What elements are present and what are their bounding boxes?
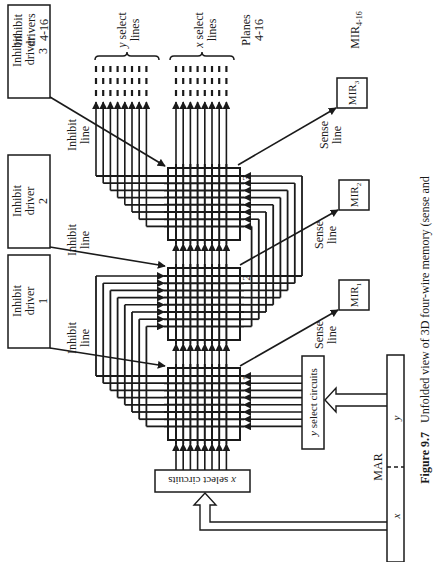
svg-text:2: 2 bbox=[36, 198, 50, 204]
svg-text:line: line bbox=[325, 326, 339, 344]
svg-text:3: 3 bbox=[240, 175, 252, 181]
inhibit-driver-2: Inhibit driver 2 bbox=[8, 155, 50, 248]
svg-text:Sense: Sense bbox=[312, 321, 326, 349]
y-select-lines-brace bbox=[95, 52, 159, 60]
x-select-lines-label: x select lines bbox=[192, 12, 219, 49]
sense-line-label-3: Sense line bbox=[317, 121, 344, 149]
svg-text:y select circuits: y select circuits bbox=[307, 368, 319, 437]
svg-text:line: line bbox=[78, 231, 92, 249]
svg-text:3: 3 bbox=[36, 48, 50, 54]
figure-caption: Figure 9.7 Unfolded view of 3D four-wire… bbox=[418, 176, 432, 483]
inhibit-line-label-3: Inhibit line bbox=[65, 118, 92, 151]
svg-text:4-16: 4-16 bbox=[252, 19, 266, 41]
plane-3-number: 3 bbox=[240, 175, 252, 181]
svg-text:driver: driver bbox=[23, 287, 37, 316]
inhibit-driver-1: Inhibit driver 1 bbox=[8, 255, 50, 348]
mar-x-field: x bbox=[390, 513, 402, 519]
mar-y-to-y-select-arrow bbox=[325, 388, 387, 412]
plane-1-number: 1 bbox=[240, 375, 252, 381]
svg-text:lines: lines bbox=[128, 18, 142, 41]
mir-group-label: MIR4-16 bbox=[348, 11, 364, 48]
inhibit-line-label-1: Inhibit line bbox=[65, 321, 92, 354]
mar-y-field: y bbox=[390, 415, 402, 421]
svg-text:Inhibit: Inhibit bbox=[11, 13, 25, 46]
svg-text:Planes: Planes bbox=[239, 14, 253, 46]
plane-2-number: 2 bbox=[240, 275, 252, 281]
svg-text:Inhibit: Inhibit bbox=[65, 321, 79, 354]
mir-1: MIR1 bbox=[339, 280, 369, 310]
core-memory-diagram: Inhibit driver 3 Inhibit driver 2 Inhibi… bbox=[0, 0, 438, 562]
mar-register: y x MAR bbox=[371, 355, 404, 562]
sense-line-label-1: Sense line bbox=[312, 321, 339, 349]
svg-text:Figure 9.7 Unfolded view: Figure 9.7 Unfolded view of 3D four-wire… bbox=[418, 176, 432, 483]
svg-text:4-16: 4-16 bbox=[37, 19, 51, 41]
svg-text:Sense: Sense bbox=[312, 221, 326, 249]
mar-x-to-x-select-arrow bbox=[194, 493, 387, 530]
mir-3: MIR3 bbox=[337, 78, 367, 108]
planes-group-label: Planes 4-16 bbox=[239, 14, 266, 46]
svg-text:line: line bbox=[78, 126, 92, 144]
svg-text:line: line bbox=[330, 126, 344, 144]
inhibit-driver-2-label: Inhibit bbox=[10, 184, 24, 217]
svg-text:line: line bbox=[78, 329, 92, 347]
svg-text:drivers: drivers bbox=[24, 13, 38, 47]
svg-text:2: 2 bbox=[240, 275, 252, 281]
continuation-dashes bbox=[96, 66, 226, 96]
x-select-circuits: x select circuits bbox=[155, 470, 250, 492]
svg-text:driver: driver bbox=[23, 187, 37, 216]
core-planes bbox=[96, 102, 302, 470]
mir-2: MIR2 bbox=[339, 180, 369, 210]
svg-text:MIR4-16: MIR4-16 bbox=[348, 11, 364, 48]
inhibit-line-1 bbox=[50, 348, 165, 366]
svg-text:line: line bbox=[325, 226, 339, 244]
inhibit-driver-1-label: Inhibit bbox=[10, 284, 24, 317]
svg-text:1: 1 bbox=[36, 298, 50, 304]
svg-text:Sense: Sense bbox=[317, 121, 331, 149]
mar-label: MAR bbox=[371, 453, 385, 480]
svg-text:x select: x select bbox=[192, 12, 206, 49]
sense-line-label-2: Sense line bbox=[312, 221, 339, 249]
x-select-lines-brace bbox=[170, 52, 234, 60]
svg-text:Inhibit: Inhibit bbox=[65, 118, 79, 151]
svg-text:y select: y select bbox=[115, 12, 129, 49]
svg-text:x select circuits: x select circuits bbox=[168, 475, 237, 487]
y-select-circuits: y select circuits bbox=[302, 356, 324, 449]
y-select-lines-label: y select lines bbox=[115, 12, 142, 49]
svg-text:lines: lines bbox=[205, 18, 219, 41]
svg-text:1: 1 bbox=[240, 375, 252, 381]
